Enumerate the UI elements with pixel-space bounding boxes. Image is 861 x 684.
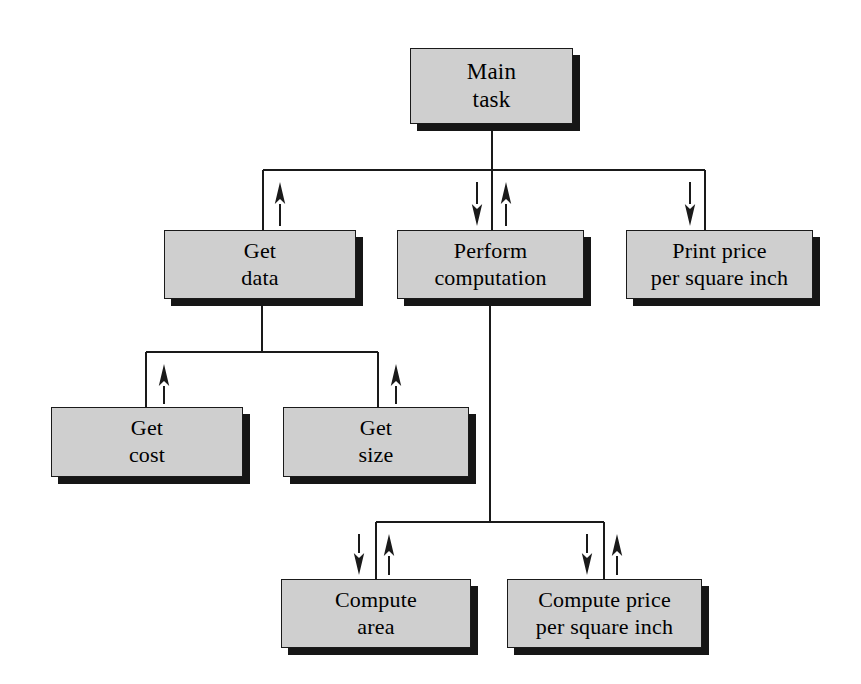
node-label-line: area bbox=[357, 614, 394, 641]
node-label-line: Compute bbox=[335, 587, 417, 614]
arrow-perform-computation-down-icon bbox=[472, 182, 482, 226]
node-label-line: task bbox=[473, 86, 511, 114]
node-get-size[interactable]: Get size bbox=[283, 407, 469, 477]
connector-lines bbox=[146, 124, 705, 579]
node-label-line: per square inch bbox=[536, 614, 673, 641]
diagram-canvas: Main task Get data Perform computation P… bbox=[0, 0, 861, 684]
arrow-head bbox=[391, 364, 401, 386]
node-label-line: Main bbox=[467, 58, 516, 86]
node-compute-area[interactable]: Compute area bbox=[281, 579, 471, 648]
node-label-line: Get bbox=[360, 415, 392, 442]
arrow-perform-computation-up-icon bbox=[501, 182, 511, 226]
arrow-get-size-up-icon bbox=[391, 364, 401, 404]
node-get-cost[interactable]: Get cost bbox=[51, 407, 243, 477]
arrow-print-price-down-icon bbox=[685, 182, 695, 226]
arrow-get-cost-up-icon bbox=[159, 364, 169, 404]
arrow-head bbox=[501, 182, 511, 204]
arrow-compute-price-up-icon bbox=[612, 534, 622, 575]
arrow-head bbox=[582, 553, 592, 575]
node-label-line: Get bbox=[244, 238, 276, 265]
arrow-head bbox=[685, 204, 695, 226]
node-label-line: Get bbox=[131, 415, 163, 442]
node-print-price-per-square-inch[interactable]: Print price per square inch bbox=[626, 230, 813, 299]
arrow-head bbox=[612, 534, 622, 556]
node-label-line: per square inch bbox=[651, 265, 788, 292]
arrow-head bbox=[275, 182, 285, 204]
node-label-line: data bbox=[241, 265, 278, 292]
arrow-compute-area-down-icon bbox=[354, 534, 364, 575]
node-compute-price-per-square-inch[interactable]: Compute price per square inch bbox=[507, 579, 702, 648]
arrow-compute-area-up-icon bbox=[384, 534, 394, 575]
node-label-line: Compute price bbox=[538, 587, 671, 614]
arrow-head bbox=[354, 553, 364, 575]
node-perform-computation[interactable]: Perform computation bbox=[397, 230, 584, 299]
node-label-line: Perform bbox=[454, 238, 528, 265]
node-label-line: size bbox=[358, 442, 393, 469]
node-label-line: Print price bbox=[672, 238, 766, 265]
node-label-line: cost bbox=[129, 442, 165, 469]
node-get-data[interactable]: Get data bbox=[164, 230, 356, 299]
node-main-task[interactable]: Main task bbox=[410, 48, 573, 124]
arrow-get-data-up-icon bbox=[275, 182, 285, 226]
arrow-head bbox=[472, 204, 482, 226]
node-label-line: computation bbox=[434, 265, 546, 292]
arrow-head bbox=[384, 534, 394, 556]
arrow-head bbox=[159, 364, 169, 386]
arrow-compute-price-down-icon bbox=[582, 534, 592, 575]
